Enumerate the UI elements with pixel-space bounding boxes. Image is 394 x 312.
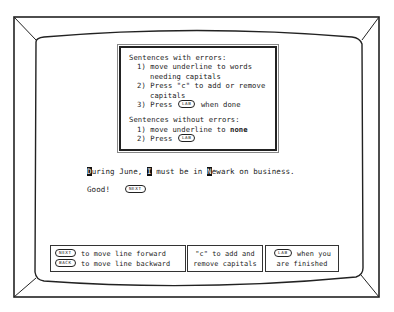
without-errors-title: Sentences without errors: [129,115,275,124]
step-1-continued: needing capitals [129,72,275,81]
help-box-finish: LAB when you are finished [265,245,339,272]
next-key-icon: NEXT [55,249,76,257]
step-3-with-errors: 3) Press LAB when done [129,100,275,109]
help-box-navigation: NEXT to move line forward BACK to move l… [50,245,186,272]
help-box-capitals: "c" to add and remove capitals [187,245,263,272]
step-1-without-errors: 1) move underline to none [129,125,275,134]
lab-key-icon: LAB [274,249,292,257]
step-1-with-errors: 1) move underline to words [129,62,275,71]
step-2-continued: capitals [129,91,275,100]
step-2-without-errors: 2) Press LAB [129,134,275,143]
with-errors-title: Sentences with errors: [129,53,275,62]
feedback-line: Good! NEXT [87,185,147,194]
practice-sentence[interactable]: During June, I must be in Newark on busi… [87,167,295,176]
step-2-with-errors: 2) Press "c" to add or remove [129,81,275,90]
instructions-panel: Sentences with errors: 1) move underline… [119,46,277,151]
lab-key-icon: LAB [178,134,196,142]
next-key-button[interactable]: NEXT [125,185,146,193]
feedback-text: Good! [87,185,110,194]
lab-key-icon: LAB [178,100,196,108]
back-key-icon: BACK [55,259,76,267]
